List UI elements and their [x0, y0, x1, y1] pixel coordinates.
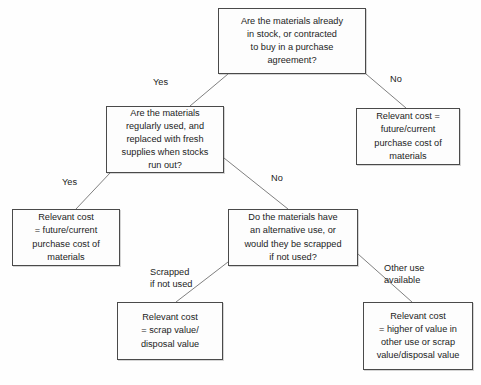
edge-label-other-use-available: Other use available [384, 262, 424, 287]
node-label: Relevant cost = higher of value in other… [377, 310, 460, 362]
node-label: Do the materials have an alternative use… [244, 211, 341, 263]
node-outcome-scrap-disposal-value: Relevant cost = scrap value/ disposal va… [117, 302, 223, 360]
node-outcome-future-current-purchase-cost-left: Relevant cost = future/current purchase … [12, 209, 120, 266]
node-label: Are the materials already in stock, or c… [241, 15, 343, 67]
connector-q2-to-r2 [76, 173, 110, 209]
node-outcome-future-current-purchase-cost-right: Relevant cost = future/current purchase … [356, 108, 460, 165]
node-label: Relevant cost = future/current purchase … [32, 211, 99, 263]
node-label: Relevant cost = future/current purchase … [374, 110, 441, 162]
decision-tree-diagram: Are the materials already in stock, or c… [0, 0, 481, 385]
node-question-alternative-use: Do the materials have an alternative use… [228, 209, 358, 266]
node-outcome-higher-of-value: Relevant cost = higher of value in other… [363, 302, 473, 370]
edge-label-yes-second: Yes [62, 176, 77, 188]
connector-q1-to-q2 [190, 74, 228, 106]
edge-label-scrapped-if-not-used: Scrapped if not used [150, 266, 192, 291]
node-label: Relevant cost = scrap value/ disposal va… [141, 311, 199, 350]
node-question-in-stock: Are the materials already in stock, or c… [218, 8, 366, 74]
node-label: Are the materials regularly used, and re… [122, 107, 209, 172]
edge-label-no-second: No [271, 172, 283, 184]
edge-label-no-top: No [390, 73, 402, 85]
node-question-regularly-used: Are the materials regularly used, and re… [106, 106, 224, 173]
edge-label-yes-top: Yes [153, 76, 168, 88]
